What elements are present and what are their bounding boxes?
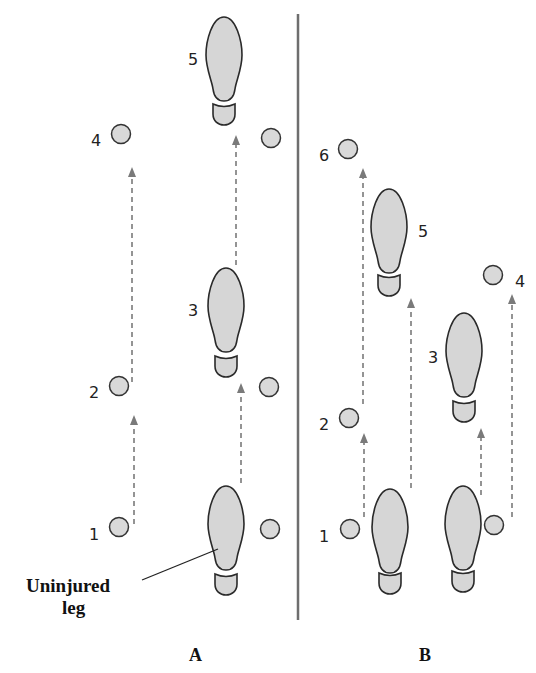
arrowhead-icon: [477, 428, 485, 438]
arrowhead-icon: [508, 294, 516, 304]
arrowhead-icon: [232, 135, 240, 145]
panel-a: 5 3 4 2 1 Uninjured le: [26, 17, 281, 665]
callout-label: Uninjured: [26, 575, 111, 596]
step-number: 2: [89, 383, 99, 402]
step-number: 5: [188, 50, 198, 69]
panel-label-b: B: [419, 645, 431, 665]
step-number: 3: [428, 348, 438, 367]
arrowhead-icon: [360, 433, 368, 443]
crutch-tip-icon: [260, 378, 279, 397]
arrowhead-icon: [128, 167, 136, 177]
crutch-tip-icon: [339, 140, 358, 159]
step-number: 1: [319, 527, 329, 546]
callout-label: leg: [62, 597, 86, 618]
gait-diagram: 5 3 4 2 1 Uninjured le: [0, 0, 536, 673]
crutch-tip-icon: [340, 409, 359, 428]
step-number: 4: [91, 131, 101, 150]
crutch-tip-icon: [485, 516, 504, 535]
arrowhead-icon: [407, 298, 415, 308]
step-number: 5: [418, 222, 428, 241]
crutch-tip-icon: [110, 518, 129, 537]
crutch-tip-icon: [112, 125, 131, 144]
foot-icon: [446, 313, 482, 422]
panel-label-a: A: [189, 645, 202, 665]
crutch-tip-icon: [262, 129, 281, 148]
step-number: 4: [515, 272, 525, 291]
arrowhead-icon: [359, 168, 367, 178]
crutch-tip-icon: [261, 520, 280, 539]
crutch-tip-icon: [484, 266, 503, 285]
panel-b: 5 3 6 4 2 1: [319, 140, 525, 666]
foot-icon: [206, 17, 242, 125]
foot-icon: [372, 489, 408, 594]
foot-icon: [445, 486, 481, 592]
callout-leader-line: [142, 549, 218, 580]
foot-icon: [208, 486, 244, 595]
arrowhead-icon: [130, 415, 138, 425]
foot-icon: [208, 268, 244, 377]
step-number: 2: [319, 415, 329, 434]
crutch-tip-icon: [110, 377, 129, 396]
crutch-tip-icon: [341, 520, 360, 539]
step-number: 3: [188, 301, 198, 320]
foot-icon: [371, 189, 407, 296]
arrowhead-icon: [237, 383, 245, 393]
step-number: 1: [89, 525, 99, 544]
step-number: 6: [319, 146, 329, 165]
